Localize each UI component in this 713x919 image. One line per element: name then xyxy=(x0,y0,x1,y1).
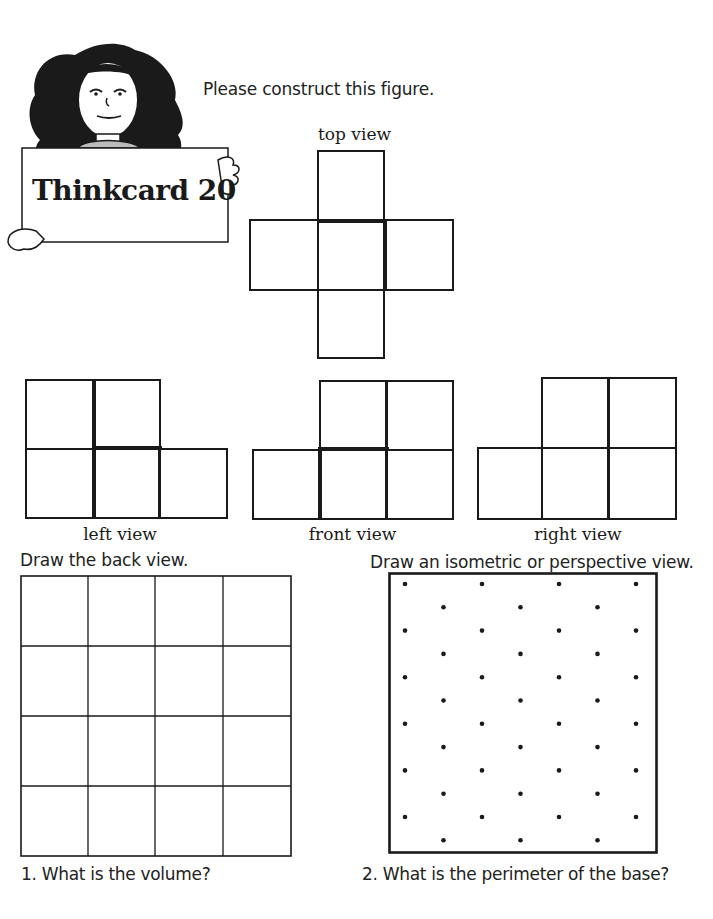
back-view-instruction: Draw the back view. xyxy=(20,550,188,570)
grid-dot xyxy=(518,838,523,843)
left-view-cell xyxy=(25,448,95,519)
grid-dot xyxy=(480,675,485,680)
grid-dot xyxy=(480,722,485,727)
grid-dot xyxy=(403,815,408,820)
grid-dot xyxy=(403,768,408,773)
top-view-cell xyxy=(317,289,385,359)
left-view-figure xyxy=(25,379,228,520)
grid-dot xyxy=(595,652,600,657)
right-view-cell xyxy=(541,377,611,450)
left-view-cell xyxy=(25,379,95,450)
grid-dot xyxy=(634,675,639,680)
grid-dot xyxy=(557,815,562,820)
grid-dot xyxy=(480,815,485,820)
top-view-label: top view xyxy=(318,124,386,144)
grid-dot xyxy=(403,628,408,633)
question-perimeter: 2. What is the perimeter of the base? xyxy=(362,864,669,884)
front-view-cell xyxy=(252,449,321,520)
front-view-label: front view xyxy=(300,524,405,544)
grid-dot xyxy=(634,582,639,587)
left-view-label: left view xyxy=(70,524,170,544)
front-view-figure xyxy=(252,380,454,520)
question-number: 2. xyxy=(362,864,378,884)
card-title: Thinkcard 20 xyxy=(32,174,236,207)
grid-dot xyxy=(518,698,523,703)
grid-dot xyxy=(441,698,446,703)
question-text: What is the volume? xyxy=(42,864,211,884)
grid-dot xyxy=(557,582,562,587)
front-view-cell xyxy=(386,449,454,520)
grid-dot xyxy=(441,838,446,843)
grid-dot xyxy=(441,652,446,657)
grid-dot xyxy=(634,722,639,727)
isometric-dot-grid[interactable] xyxy=(388,572,658,854)
front-view-cell xyxy=(319,380,389,451)
grid-dot xyxy=(518,791,523,796)
front-view-cell xyxy=(386,380,454,451)
construct-instruction: Please construct this figure. xyxy=(203,79,434,99)
grid-dot xyxy=(441,791,446,796)
top-view-cell xyxy=(317,219,387,291)
right-view-figure xyxy=(477,377,677,520)
grid-dot xyxy=(595,605,600,610)
grid-dot xyxy=(595,838,600,843)
front-view-cell xyxy=(318,447,389,520)
top-view-cell xyxy=(249,219,319,291)
right-view-label: right view xyxy=(528,524,628,544)
grid-dot xyxy=(595,745,600,750)
grid-dot xyxy=(557,628,562,633)
right-view-cell xyxy=(541,447,611,520)
grid-dot xyxy=(518,605,523,610)
grid-dot xyxy=(634,815,639,820)
right-view-cell xyxy=(608,447,677,520)
question-number: 1. xyxy=(21,864,37,884)
grid-dot xyxy=(403,675,408,680)
left-view-cell xyxy=(92,446,162,519)
grid-dot xyxy=(441,745,446,750)
grid-dot xyxy=(518,652,523,657)
right-view-cell xyxy=(608,377,677,450)
grid-dot xyxy=(595,698,600,703)
isometric-instruction: Draw an isometric or perspective view. xyxy=(370,552,694,572)
grid-dot xyxy=(480,768,485,773)
grid-dot xyxy=(557,722,562,727)
right-view-cell xyxy=(477,447,545,520)
top-view-figure xyxy=(249,150,454,360)
grid-dot xyxy=(634,628,639,633)
grid-dot xyxy=(403,582,408,587)
grid-dot xyxy=(595,791,600,796)
question-text: What is the perimeter of the base? xyxy=(383,864,669,884)
grid-dot xyxy=(557,768,562,773)
grid-dot xyxy=(441,605,446,610)
girl-illustration xyxy=(0,30,250,260)
back-view-drawing-grid[interactable] xyxy=(20,575,292,857)
top-view-cell xyxy=(385,219,454,291)
left-view-cell xyxy=(159,448,228,519)
girl-with-sign-icon xyxy=(0,30,250,260)
grid-dot xyxy=(634,768,639,773)
question-volume: 1. What is the volume? xyxy=(21,864,210,884)
grid-dot xyxy=(403,722,408,727)
grid-dot xyxy=(518,745,523,750)
grid-dot xyxy=(557,675,562,680)
top-view-cell xyxy=(317,150,385,221)
grid-dot xyxy=(480,628,485,633)
grid-dot xyxy=(480,582,485,587)
left-view-cell xyxy=(92,379,161,450)
